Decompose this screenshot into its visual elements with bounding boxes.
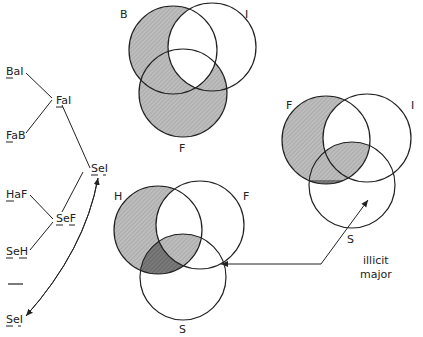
premise-haf: HaF [6, 188, 27, 201]
label-i: I [245, 8, 248, 21]
conclusion-fai: FaI [56, 94, 71, 107]
syllogism-diagram: B I F F I S H F S [0, 0, 423, 337]
conclusion-sef: SeF [56, 212, 76, 225]
label-h: H [114, 190, 122, 203]
premise-seh: SeH [6, 245, 28, 258]
annotation-illicit: illicit [363, 254, 389, 267]
premise-bai: BaI [6, 65, 24, 78]
premise-fab: FaB [6, 129, 26, 142]
label-b: B [120, 8, 128, 21]
label-i: I [411, 99, 414, 112]
venn-top: B I F [120, 3, 256, 155]
label-f: F [286, 99, 292, 112]
label-f: F [243, 190, 249, 203]
label-s: S [347, 233, 354, 246]
venn-right: F I S [270, 94, 414, 246]
venn-bottom: H F S [100, 181, 249, 336]
illicit-major-connector: illicit major [221, 200, 392, 281]
annotation-major: major [360, 268, 392, 281]
final-sei: SeI [6, 313, 23, 326]
derivation-tree: BaI FaB FaI SeI HaF SeF SeH SeI [6, 65, 108, 326]
conclusion-sei: SeI [91, 162, 108, 175]
label-f: F [179, 142, 185, 155]
label-s: S [179, 323, 186, 336]
